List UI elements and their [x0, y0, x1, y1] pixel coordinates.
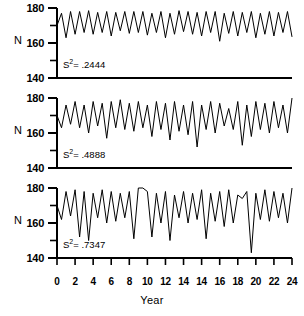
y-tick-180-2: 180	[16, 182, 44, 194]
x-tick-label-3: 6	[109, 276, 114, 287]
x-tick-label-7: 14	[178, 276, 189, 287]
x-axis: 02468101214141618202224 Year	[0, 270, 304, 316]
variance-annotation-1: S2= .4888	[63, 148, 105, 160]
x-tick-label-13: 24	[287, 276, 298, 287]
chart-panel-low-variance: N 180 160 140 S2= .2444	[0, 0, 304, 90]
figure-population-oscillations: N 180 160 140 S2= .2444 N 180 160 140 S2…	[0, 0, 304, 316]
data-line-1	[57, 98, 292, 147]
plot-area-1	[0, 90, 304, 180]
variance-value-1: = .4888	[73, 149, 105, 160]
variance-value-2: = .7347	[73, 239, 105, 250]
x-tick-label-4: 8	[127, 276, 132, 287]
y-tick-180-0: 180	[16, 2, 44, 14]
x-tick-label-8: 14	[196, 276, 207, 287]
x-tick-label-6: 12	[160, 276, 171, 287]
variance-annotation-0: S2= .2444	[63, 58, 105, 70]
x-tick-label-5: 10	[142, 276, 153, 287]
x-tick-label-2: 4	[91, 276, 96, 287]
variance-value-0: = .2444	[73, 59, 105, 70]
chart-panel-mid-variance: N 180 160 140 S2= .4888	[0, 90, 304, 180]
y-tick-140-0: 140	[16, 72, 44, 84]
x-tick-label-10: 18	[233, 276, 244, 287]
x-tick-label-9: 16	[214, 276, 225, 287]
y-tick-160-2: 160	[16, 217, 44, 229]
x-axis-title: Year	[0, 294, 304, 306]
x-tick-label-1: 2	[72, 276, 77, 287]
y-tick-160-1: 160	[16, 127, 44, 139]
data-line-0	[57, 11, 292, 42]
chart-panel-high-variance: N 180 160 140 S2= .7347	[0, 180, 304, 270]
y-tick-180-1: 180	[16, 92, 44, 104]
x-tick-label-11: 20	[251, 276, 262, 287]
plot-area-0	[0, 0, 304, 90]
variance-annotation-2: S2= .7347	[63, 238, 105, 250]
plot-area-2	[0, 180, 304, 270]
y-tick-140-1: 140	[16, 162, 44, 174]
x-tick-label-12: 22	[269, 276, 280, 287]
x-tick-label-0: 0	[54, 276, 59, 287]
x-axis-ticks	[57, 258, 292, 265]
y-tick-160-0: 160	[16, 37, 44, 49]
y-tick-140-2: 140	[16, 252, 44, 264]
